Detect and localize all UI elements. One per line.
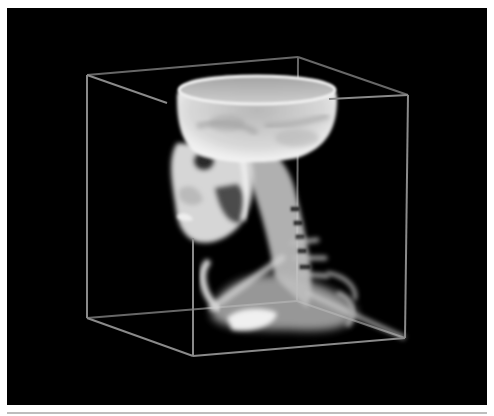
- volume-render-canvas: [7, 8, 487, 405]
- bottom-divider: [7, 412, 487, 414]
- volume-render-viewport[interactable]: 3D volume rendering of skull and cervica…: [7, 8, 487, 405]
- skull-volume: [171, 76, 405, 338]
